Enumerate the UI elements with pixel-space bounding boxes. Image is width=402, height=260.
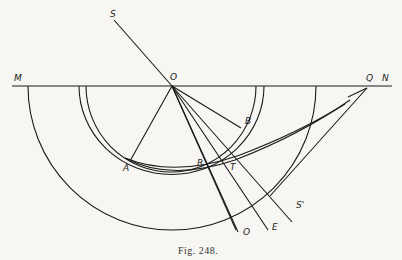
label-e: E	[272, 222, 278, 232]
ray-o-a	[130, 86, 172, 161]
ray-o-s-prime	[172, 86, 292, 222]
q-tick	[348, 88, 367, 97]
figure-caption: Fig. 248.	[178, 245, 218, 256]
label-o-center: O	[170, 72, 177, 82]
label-n: N	[382, 73, 389, 83]
ray-o-b	[172, 86, 241, 128]
label-s-prime: S'	[296, 200, 304, 210]
label-o-bottom: O	[243, 227, 250, 237]
ray-s-o	[114, 20, 172, 86]
inner-arc-2	[86, 86, 256, 172]
label-t: T	[230, 162, 237, 172]
geometry-figure: M N O Q S B A R T S' O E Fig. 248.	[0, 0, 402, 260]
line-q-lower	[270, 88, 367, 196]
label-s: S	[110, 9, 116, 19]
label-r: R	[197, 158, 203, 168]
label-q: Q	[366, 73, 373, 83]
label-m: M	[14, 73, 22, 83]
ray-visible-o	[172, 86, 236, 230]
label-a: A	[122, 163, 129, 173]
outer-arc	[28, 86, 316, 230]
inner-arc-1	[79, 86, 264, 174]
label-b: B	[245, 116, 251, 126]
